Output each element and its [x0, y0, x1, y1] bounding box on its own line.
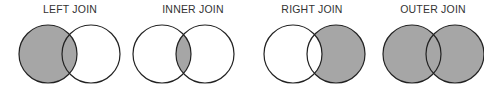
- inner-join-diagram: [133, 25, 234, 83]
- right-join-diagram: [264, 25, 365, 83]
- outer-join-diagram: [383, 25, 484, 83]
- left-join-diagram: [19, 25, 120, 83]
- venn-diagrams: [0, 0, 484, 90]
